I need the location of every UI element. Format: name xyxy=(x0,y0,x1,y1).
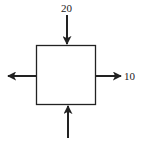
force-diagram: 20 10 xyxy=(0,0,143,143)
square-element xyxy=(37,46,96,105)
right-force-label: 10 xyxy=(124,71,135,82)
top-force-label: 20 xyxy=(61,3,72,14)
diagram-svg xyxy=(0,0,143,143)
